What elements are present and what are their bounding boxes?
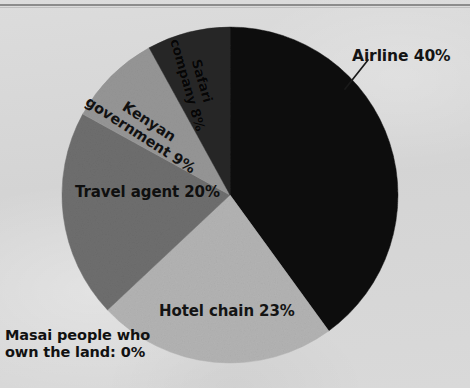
pie-chart-page: Airline 40% Hotel chain 23% Travel agent… bbox=[0, 0, 470, 388]
slice-label-hotel-chain: Hotel chain 23% bbox=[159, 303, 295, 320]
masai-line-1: Masai people who bbox=[5, 327, 150, 344]
masai-line-2: own the land: 0% bbox=[5, 344, 150, 361]
slice-label-masai-people: Masai people who own the land: 0% bbox=[5, 327, 150, 361]
slice-label-airline: Airline 40% bbox=[352, 48, 451, 65]
slice-label-travel-agent: Travel agent 20% bbox=[75, 184, 220, 201]
